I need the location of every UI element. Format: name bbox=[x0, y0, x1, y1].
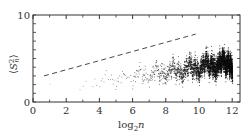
x-axis-tick-labels: 024681012 bbox=[30, 105, 239, 116]
y-tick-label: 0 bbox=[24, 97, 30, 108]
x-tick-label: 4 bbox=[96, 105, 102, 116]
y-axis-label: ⟨S2n⟩ bbox=[8, 54, 21, 74]
x-tick-label: 0 bbox=[30, 105, 36, 116]
x-tick-label: 8 bbox=[163, 105, 169, 116]
x-axis-label: log2n bbox=[118, 119, 145, 133]
x-tick-label: 2 bbox=[63, 105, 69, 116]
x-tick-label: 12 bbox=[226, 105, 239, 116]
y-tick-label: 10 bbox=[17, 10, 30, 21]
chart: 024681012 010 log2n ⟨S2n⟩ bbox=[0, 0, 252, 134]
x-tick-label: 10 bbox=[193, 105, 206, 116]
x-tick-label: 6 bbox=[129, 105, 135, 116]
